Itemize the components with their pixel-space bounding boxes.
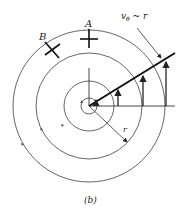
radius-label: r — [123, 125, 128, 134]
vortex-diagram: A B vθ ~ r r (b) — [0, 0, 185, 214]
velocity-profile-line — [89, 53, 175, 106]
velocity-label: vθ ~ r — [121, 11, 148, 22]
velocity-leader-line — [137, 28, 161, 58]
element-a-cross — [80, 29, 98, 48]
figure-caption: (b) — [84, 195, 97, 205]
radius-arrow — [89, 106, 127, 142]
label-a: A — [84, 18, 92, 29]
label-b: B — [38, 31, 46, 42]
velocity-relation: ~ r — [130, 11, 148, 21]
element-b-cross — [45, 42, 60, 58]
flow-direction-arrows — [21, 100, 83, 146]
